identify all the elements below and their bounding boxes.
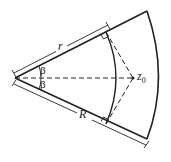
upper-tangent-dashed xyxy=(106,32,133,78)
label-beta-upper: β xyxy=(40,65,46,76)
lower-tangent-dashed xyxy=(106,78,133,124)
sector-diagram: r R β β z0 xyxy=(0,0,171,162)
label-z0: z0 xyxy=(137,70,146,85)
label-beta-lower: β xyxy=(40,79,46,90)
label-z0-subscript: 0 xyxy=(142,76,146,85)
R-dimension-line-b xyxy=(92,120,146,145)
r-dimension-tick-left xyxy=(12,70,16,77)
r-dimension-line-a xyxy=(14,52,56,74)
z0-point xyxy=(132,77,135,80)
label-R: R xyxy=(79,108,86,120)
label-r: r xyxy=(58,40,63,52)
outer-arc xyxy=(147,11,159,139)
